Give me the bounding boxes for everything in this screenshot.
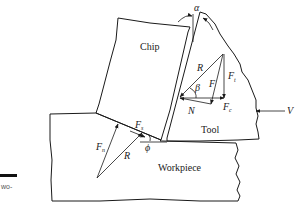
label-workpiece: Workpiece: [158, 162, 202, 173]
label-Fn-sub: n: [102, 147, 105, 153]
tool-outline: [167, 12, 259, 141]
caption-fragment: wo-: [0, 183, 13, 190]
label-V: V: [287, 105, 295, 116]
chip-outline: [96, 18, 190, 140]
label-R-tool: R: [196, 62, 203, 73]
label-tool: Tool: [201, 124, 219, 135]
alpha-arc-left: [178, 16, 192, 22]
force-R-shear: [97, 133, 142, 178]
label-Fs-sub: s: [141, 125, 144, 131]
alpha-label: α: [194, 2, 200, 13]
orthogonal-cutting-force-diagram: wo- α R F F t β F c N V F s F n R ϕ Chip…: [0, 0, 298, 210]
label-N: N: [187, 105, 196, 116]
force-R-tool: [180, 54, 223, 97]
force-N: [180, 98, 211, 104]
label-Ft-sub: t: [234, 77, 236, 83]
label-Fc-sub: c: [229, 107, 232, 113]
label-phi: ϕ: [145, 142, 150, 153]
label-R-shear: R: [123, 150, 130, 161]
label-chip: Chip: [140, 41, 159, 52]
label-beta: β: [194, 82, 200, 93]
caption-bar: [0, 174, 17, 177]
label-F: F: [208, 78, 216, 89]
